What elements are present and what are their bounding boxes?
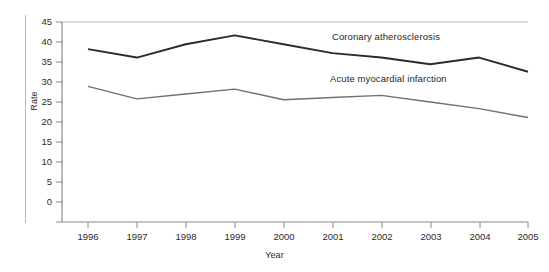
y-axis-ticks [56, 22, 62, 222]
y-tick-label-5: 5 [26, 177, 52, 187]
y-tick-label-20: 20 [26, 117, 52, 127]
x-tick-label-2002: 2002 [359, 232, 405, 242]
y-tick-label-35: 35 [26, 57, 52, 67]
series-label-coronary-atherosclerosis: Coronary atherosclerosis [332, 31, 440, 42]
x-tick-label-1996: 1996 [65, 232, 111, 242]
x-tick-label-1997: 1997 [114, 232, 160, 242]
y-tick-label-25: 25 [26, 97, 52, 107]
x-tick-label-1999: 1999 [212, 232, 258, 242]
x-tick-label-1998: 1998 [163, 232, 209, 242]
x-tick-label-2003: 2003 [408, 232, 454, 242]
y-tick-label-15: 15 [26, 137, 52, 147]
x-axis-title: Year [0, 250, 549, 260]
x-tick-label-2004: 2004 [457, 232, 503, 242]
series-line-acute-myocardial-infarction [88, 86, 528, 117]
x-tick-label-2000: 2000 [261, 232, 307, 242]
y-tick-label-40: 40 [26, 37, 52, 47]
x-axis-ticks [88, 222, 528, 228]
x-tick-label-2005: 2005 [505, 232, 549, 242]
y-tick-label-45: 45 [26, 17, 52, 27]
chart-figure: Rate Year 45 40 35 30 25 20 15 10 5 0 19… [0, 0, 549, 272]
y-tick-label-0: 0 [26, 197, 52, 207]
y-tick-label-10: 10 [26, 157, 52, 167]
y-tick-label-30: 30 [26, 77, 52, 87]
series-line-coronary-atherosclerosis [88, 35, 528, 71]
x-tick-label-2001: 2001 [310, 232, 356, 242]
series-label-acute-myocardial-infarction: Acute myocardial infarction [330, 73, 447, 84]
